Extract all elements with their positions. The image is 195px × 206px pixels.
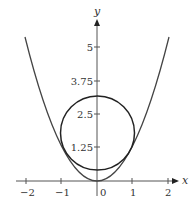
y-axis-arrow-icon xyxy=(94,19,100,26)
plot-area: x y −2 −1 0 1 2 5 3.75 2.5 1.25 xyxy=(0,0,195,206)
y-tick-label: 3.75 xyxy=(71,76,93,87)
x-tick-label: 0 xyxy=(100,187,106,198)
x-tick-label: 1 xyxy=(130,187,136,198)
x-tick-label: −2 xyxy=(20,187,35,198)
x-axis-label: x xyxy=(182,174,189,187)
y-tick-label: 1.25 xyxy=(71,142,93,153)
x-axis-arrow-icon xyxy=(172,178,179,184)
x-tick-label: 2 xyxy=(165,187,171,198)
x-tick-label: −1 xyxy=(55,187,70,198)
y-axis-label: y xyxy=(93,5,101,18)
y-tick-label: 2.5 xyxy=(77,109,93,120)
y-tick-label: 5 xyxy=(87,42,93,53)
